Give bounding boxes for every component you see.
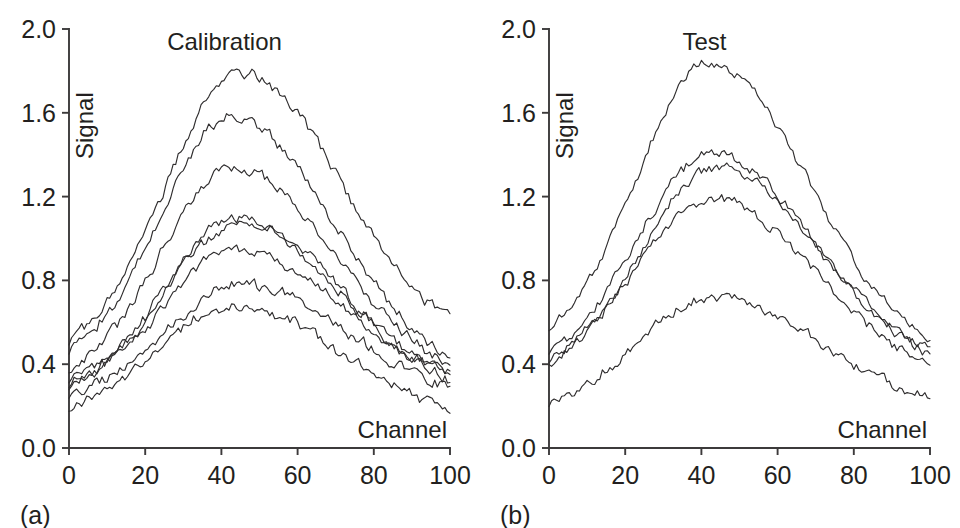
x-tick-label: 100 bbox=[909, 461, 951, 489]
x-axis-ticks: 020406080100 bbox=[542, 448, 951, 489]
y-tick-label: 1.6 bbox=[21, 99, 56, 127]
spectrum-curve bbox=[549, 163, 930, 366]
y-tick-label: 0.0 bbox=[21, 434, 56, 462]
chart-canvas-b: 0.00.40.81.21.62.0020406080100TestSignal… bbox=[480, 0, 960, 528]
spectrum-curve bbox=[549, 195, 930, 365]
x-tick-label: 40 bbox=[687, 461, 715, 489]
x-tick-label: 0 bbox=[62, 461, 76, 489]
chart-panel-b: 0.00.40.81.21.62.0020406080100TestSignal… bbox=[480, 0, 960, 528]
spectrum-curve bbox=[549, 150, 930, 355]
figure-root: 0.00.40.81.21.62.0020406080100Calibratio… bbox=[0, 0, 960, 528]
y-axis-ticks: 0.00.40.81.21.62.0 bbox=[21, 15, 69, 462]
y-tick-label: 0.4 bbox=[21, 350, 56, 378]
x-tick-label: 20 bbox=[131, 461, 159, 489]
y-axis-title: Signal bbox=[71, 92, 98, 159]
x-tick-label: 60 bbox=[284, 461, 312, 489]
panel-annotations: TestSignalChannel(b) bbox=[500, 28, 927, 528]
spectrum-curve bbox=[69, 114, 450, 358]
y-axis-title: Signal bbox=[551, 92, 578, 159]
y-tick-label: 2.0 bbox=[501, 15, 536, 43]
panel-annotations: CalibrationSignalChannel(a) bbox=[20, 28, 447, 528]
y-tick-label: 0.8 bbox=[21, 266, 56, 294]
spectrum-curve bbox=[69, 221, 450, 383]
x-tick-label: 80 bbox=[840, 461, 868, 489]
y-tick-label: 1.6 bbox=[501, 99, 536, 127]
x-tick-label: 0 bbox=[542, 461, 556, 489]
spectrum-curve bbox=[69, 69, 450, 345]
y-tick-label: 0.0 bbox=[501, 434, 536, 462]
x-axis-title: Channel bbox=[358, 416, 447, 443]
chart-panel-a: 0.00.40.81.21.62.0020406080100Calibratio… bbox=[0, 0, 480, 528]
spectrum-curve bbox=[549, 293, 930, 406]
y-tick-label: 0.8 bbox=[501, 266, 536, 294]
x-tick-label: 20 bbox=[611, 461, 639, 489]
panel-title: Calibration bbox=[167, 28, 282, 55]
axes bbox=[549, 29, 930, 448]
panel-title: Test bbox=[682, 28, 726, 55]
y-tick-label: 0.4 bbox=[501, 350, 536, 378]
x-tick-label: 80 bbox=[360, 461, 388, 489]
y-axis-ticks: 0.00.40.81.21.62.0 bbox=[501, 15, 549, 462]
spectra-curves bbox=[69, 69, 450, 413]
x-tick-label: 100 bbox=[429, 461, 471, 489]
x-axis-ticks: 020406080100 bbox=[62, 448, 471, 489]
axis-lines bbox=[549, 29, 930, 448]
spectrum-curve bbox=[69, 304, 450, 413]
x-tick-label: 60 bbox=[764, 461, 792, 489]
figure-caption-fragment bbox=[0, 518, 960, 528]
y-tick-label: 1.2 bbox=[21, 183, 56, 211]
spectra-curves bbox=[549, 60, 930, 406]
y-tick-label: 2.0 bbox=[21, 15, 56, 43]
chart-canvas-a: 0.00.40.81.21.62.0020406080100Calibratio… bbox=[0, 0, 480, 528]
x-axis-title: Channel bbox=[838, 416, 927, 443]
x-tick-label: 40 bbox=[207, 461, 235, 489]
spectrum-curve bbox=[69, 215, 450, 390]
y-tick-label: 1.2 bbox=[501, 183, 536, 211]
